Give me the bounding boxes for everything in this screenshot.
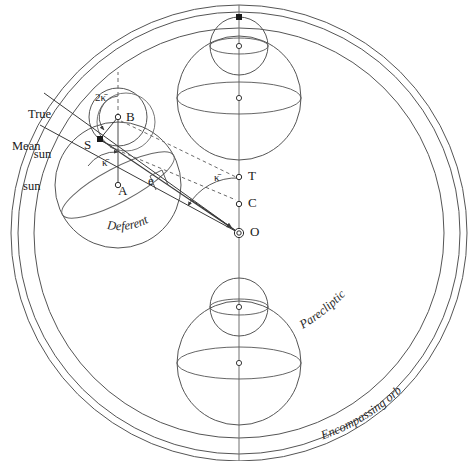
figure-canvas: Deferent Parecliptic Encompassing orb Tr… <box>0 0 469 461</box>
node-O-marker <box>234 228 243 237</box>
node-S-marker <box>97 136 103 142</box>
node-C-marker <box>236 201 241 206</box>
point-B-label: B <box>126 110 135 124</box>
bottom-large-orb-center-node <box>236 360 241 365</box>
encompassing-orb-label-textpath: Encompassing orb <box>318 383 404 442</box>
mean-sun-label-line2: sun <box>12 180 40 193</box>
deferent-label-textpath: Deferent <box>105 212 150 233</box>
point-C-label: C <box>248 196 257 210</box>
encompassing-orb-curved-label: Encompassing orb <box>318 383 404 442</box>
point-O-label: O <box>250 225 259 239</box>
point-T-label: T <box>248 169 256 183</box>
top-large-orb-center-node <box>236 95 241 100</box>
node-B-marker <box>115 114 120 119</box>
parecliptic-label-textpath: Parecliptic <box>296 287 348 332</box>
bottom-small-orb-center-node <box>236 304 241 309</box>
apogee-marker <box>236 14 242 20</box>
node-T-marker <box>236 174 241 179</box>
kappa-bar-center-label: κ̄ <box>214 172 220 184</box>
deferent-curved-label: Deferent <box>105 212 150 233</box>
point-A-label: A <box>118 184 127 198</box>
point-S-label: S <box>84 138 91 152</box>
mean-sun-label-line1: Mean <box>12 140 40 153</box>
two-kappa-bar-label: 2κ̄ <box>95 92 106 104</box>
astronomical-diagram-svg: Deferent Parecliptic Encompassing orb <box>0 0 469 461</box>
line-O-to-true-sun <box>44 93 239 233</box>
kappa-bar-epicycle-label: κ̄ <box>102 157 108 169</box>
eccentricity-label: e <box>148 174 154 188</box>
mean-sun-label: Mean sun <box>12 114 40 219</box>
top-small-orb-center-node <box>236 43 241 48</box>
arrow-toward-O-upper <box>190 199 232 228</box>
parecliptic-curved-label: Parecliptic <box>296 287 348 332</box>
